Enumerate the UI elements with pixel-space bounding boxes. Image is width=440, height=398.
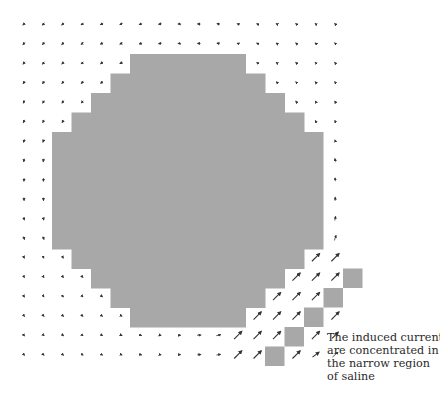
caption-line-4: of saline	[327, 370, 439, 383]
vector-field-diagram: The induced currents are concentrated in…	[0, 0, 440, 398]
caption-line-1: The induced currents	[327, 331, 439, 344]
caption-line-2: are concentrated in	[327, 344, 439, 357]
body-region	[52, 54, 324, 328]
annotation-caption: The induced currents are concentrated in…	[327, 331, 439, 383]
caption-line-3: the narrow region	[327, 357, 439, 370]
